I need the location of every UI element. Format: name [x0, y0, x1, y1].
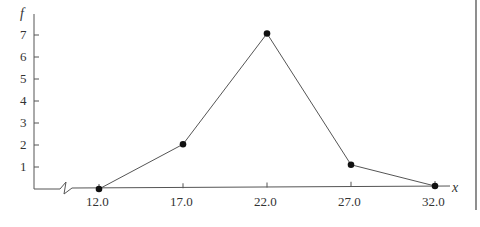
y-tick-label: 2: [20, 137, 27, 152]
y-tick-label: 5: [20, 71, 27, 86]
data-point: [96, 186, 103, 193]
y-tick-label: 1: [20, 159, 27, 174]
series-line: [99, 34, 435, 190]
data-point: [264, 30, 271, 37]
data-point: [432, 183, 439, 190]
y-tick-label: 3: [20, 115, 27, 130]
data-point: [180, 141, 187, 148]
data-point: [348, 161, 355, 168]
x-axis-label: x: [451, 180, 459, 195]
x-ticks: 12.017.022.027.032.0: [86, 181, 445, 209]
y-tick-label: 4: [20, 93, 27, 108]
y-axis-label: f: [20, 6, 26, 21]
y-tick-label: 7: [20, 27, 27, 42]
frequency-polygon-chart: 1234567 12.017.022.027.032.0 f x: [0, 0, 480, 227]
x-tick-label: 17.0: [170, 194, 193, 209]
data-series: [96, 30, 439, 192]
x-tick-label: 32.0: [422, 194, 445, 209]
x-tick-label: 12.0: [86, 194, 109, 209]
y-ticks: 1234567: [20, 27, 39, 174]
x-tick-label: 22.0: [254, 194, 277, 209]
x-tick-label: 27.0: [338, 194, 361, 209]
y-tick-label: 6: [20, 49, 27, 64]
